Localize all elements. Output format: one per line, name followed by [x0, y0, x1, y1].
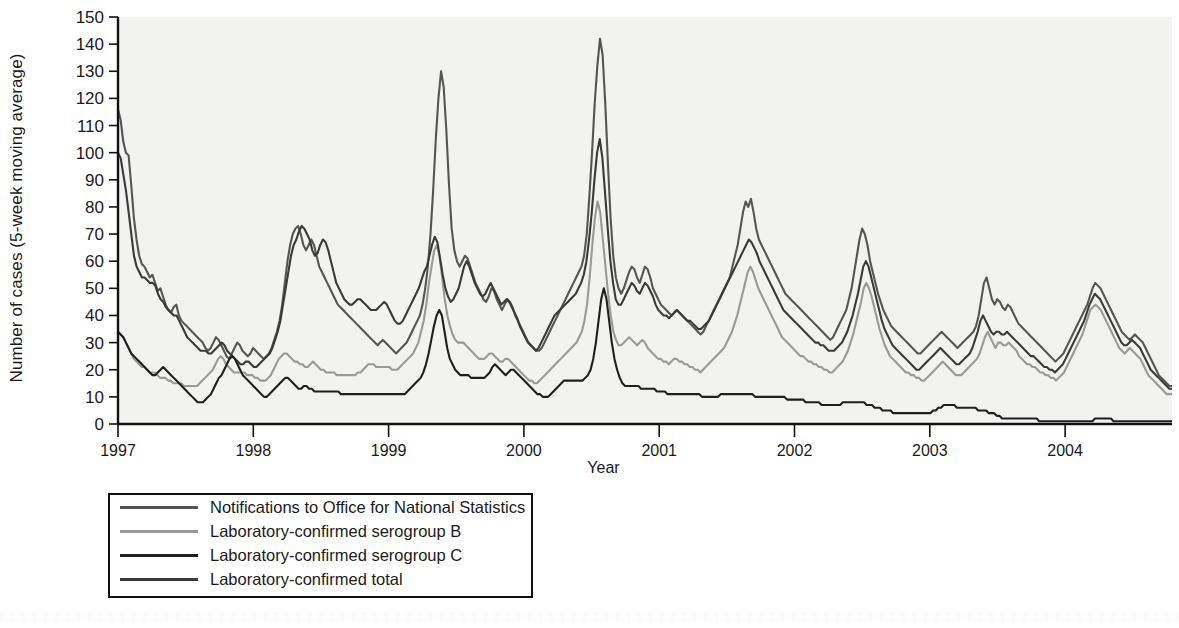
y-axis-tick-label: 30	[85, 334, 104, 353]
y-axis-tick-label: 50	[85, 279, 104, 298]
y-axis-tick-label: 60	[85, 252, 104, 271]
x-axis-title: Year	[0, 459, 1179, 477]
y-axis-tick-label: 0	[95, 415, 104, 434]
legend-item-lab-total: Laboratory-confirmed total	[120, 567, 531, 591]
legend-swatch-notifications	[120, 506, 198, 509]
x-axis-tick-label: 2000	[506, 442, 542, 459]
legend-item-serogroup-c: Laboratory-confirmed serogroup C	[120, 543, 531, 567]
x-axis-tick-label: 2002	[777, 442, 813, 459]
x-axis-tick-label: 2001	[641, 442, 677, 459]
y-axis-tick-label: 90	[85, 171, 104, 190]
y-axis-tick-label: 10	[85, 388, 104, 407]
legend-label-lab-total: Laboratory-confirmed total	[210, 570, 403, 589]
x-axis-tick-label: 1998	[236, 442, 272, 459]
y-axis-tick-label: 140	[76, 35, 104, 54]
legend-item-notifications: Notifications to Office for National Sta…	[120, 495, 531, 519]
y-axis-tick-label: 130	[76, 62, 104, 81]
x-axis-tick-label: 2004	[1047, 442, 1083, 459]
chart-figure: Number of cases (5-week moving average) …	[0, 0, 1179, 628]
chart-legend: Notifications to Office for National Sta…	[108, 493, 533, 598]
x-axis-tick-label: 1999	[371, 442, 407, 459]
y-axis-tick-label: 20	[85, 361, 104, 380]
y-axis-tick-label: 120	[76, 89, 104, 108]
scan-noise-artifact	[0, 612, 1179, 622]
y-axis-tick-label: 100	[76, 144, 104, 163]
legend-swatch-serogroup-b	[120, 530, 198, 533]
legend-swatch-serogroup-c	[120, 554, 198, 557]
y-axis-tick-label: 80	[85, 198, 104, 217]
x-axis-tick-label: 1997	[100, 442, 136, 459]
y-axis-tick-label: 40	[85, 306, 104, 325]
line-chart-plot: 0102030405060708090100110120130140150199…	[0, 0, 1179, 470]
y-axis-tick-label: 70	[85, 225, 104, 244]
legend-label-notifications: Notifications to Office for National Sta…	[210, 498, 525, 517]
x-axis-tick-label: 2003	[912, 442, 948, 459]
x-axis-title-text: Year	[587, 459, 619, 476]
legend-swatch-lab-total	[120, 578, 198, 581]
legend-item-serogroup-b: Laboratory-confirmed serogroup B	[120, 519, 531, 543]
y-axis-tick-label: 150	[76, 8, 104, 27]
legend-label-serogroup-b: Laboratory-confirmed serogroup B	[210, 522, 461, 541]
y-axis-tick-label: 110	[77, 117, 104, 136]
legend-label-serogroup-c: Laboratory-confirmed serogroup C	[210, 546, 462, 565]
